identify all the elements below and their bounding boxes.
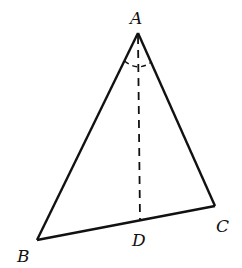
label-d: D xyxy=(132,232,146,249)
side-ac xyxy=(138,33,215,206)
side-bc xyxy=(37,206,215,240)
label-a: A xyxy=(130,10,142,27)
triangle-diagram xyxy=(0,0,242,268)
label-b: B xyxy=(17,248,30,265)
label-c: C xyxy=(216,218,229,235)
bisector-ad xyxy=(138,36,140,221)
side-ab xyxy=(37,33,138,240)
